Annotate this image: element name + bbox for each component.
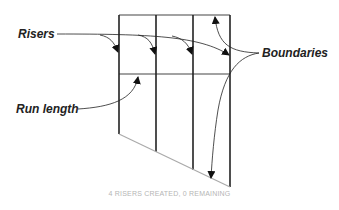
risers-arrow-1 xyxy=(100,35,118,52)
risers-label: Risers xyxy=(18,27,55,41)
boundaries-leader-top xyxy=(215,17,259,53)
boundaries-leader-bottom xyxy=(211,53,259,178)
risers-leader xyxy=(57,34,229,55)
run-length-leader xyxy=(78,77,138,109)
boundaries-label: Boundaries xyxy=(262,46,328,60)
status-text: 4 RISERS CREATED, 0 REMAINING xyxy=(0,190,339,197)
run-length-label: Run length xyxy=(16,102,79,116)
bottom-boundary-line xyxy=(119,134,230,187)
risers-arrow-2 xyxy=(138,35,155,54)
